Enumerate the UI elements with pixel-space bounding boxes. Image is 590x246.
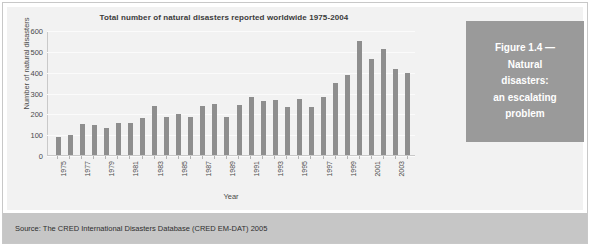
x-tick-mark xyxy=(250,156,251,159)
chart-title: Total number of natural disasters report… xyxy=(29,13,419,22)
x-tick-mark xyxy=(383,156,384,159)
bar xyxy=(405,73,410,155)
chart-panel: Total number of natural disasters report… xyxy=(7,7,583,210)
x-tick-label: 1977 xyxy=(84,161,91,177)
figure-caption-line: Figure 1.4 — xyxy=(493,40,556,57)
x-tick-mark xyxy=(93,156,94,159)
x-tick-label: 2003 xyxy=(398,161,405,177)
y-tick-label: 100 xyxy=(30,131,43,140)
y-tick-label: 600 xyxy=(30,27,43,36)
bar xyxy=(56,137,61,155)
bar xyxy=(80,124,85,155)
bar xyxy=(116,123,121,155)
x-tick-mark xyxy=(359,156,360,159)
x-tick-label: 1985 xyxy=(181,161,188,177)
figure-caption-box: Figure 1.4 —Naturaldisasters:an escalati… xyxy=(466,21,584,142)
figure-caption-line: Natural xyxy=(493,57,556,74)
bar xyxy=(333,83,338,155)
x-tick-mark xyxy=(117,156,118,159)
bar xyxy=(357,41,362,155)
figure-caption-text: Figure 1.4 —Naturaldisasters:an escalati… xyxy=(493,40,556,123)
plot-area: 0100200300400500600 19751977197919811983… xyxy=(47,31,415,156)
x-tick-mark xyxy=(407,156,408,159)
x-tick-label: 1995 xyxy=(301,161,308,177)
x-tick-label: 1997 xyxy=(326,161,333,177)
bar xyxy=(393,69,398,155)
x-tick-label: 1981 xyxy=(132,161,139,177)
x-tick-label: 1983 xyxy=(157,161,164,177)
x-tick-mark xyxy=(371,156,372,159)
x-tick-mark xyxy=(214,156,215,159)
bar xyxy=(140,118,145,155)
bar xyxy=(381,49,386,155)
x-tick-mark xyxy=(226,156,227,159)
bar xyxy=(224,117,229,155)
figure-caption-line: disasters: xyxy=(493,73,556,90)
x-tick-label: 1975 xyxy=(60,161,67,177)
x-tick-mark xyxy=(178,156,179,159)
bar xyxy=(237,105,242,155)
bar xyxy=(369,59,374,155)
x-tick-mark xyxy=(129,156,130,159)
x-tick-mark xyxy=(262,156,263,159)
x-tick-label: 1987 xyxy=(205,161,212,177)
y-tick-label: 200 xyxy=(30,110,43,119)
x-tick-mark xyxy=(81,156,82,159)
x-tick-label: 1999 xyxy=(350,161,357,177)
x-tick-label: 1979 xyxy=(108,161,115,177)
figure-caption-line: problem xyxy=(493,106,556,123)
x-tick-mark xyxy=(238,156,239,159)
bar xyxy=(212,104,217,155)
figure-container: Total number of natural disasters report… xyxy=(0,0,590,246)
x-axis-label: Year xyxy=(47,192,415,201)
bar xyxy=(200,106,205,155)
x-tick-mark xyxy=(57,156,58,159)
bar xyxy=(273,100,278,155)
x-tick-mark xyxy=(347,156,348,159)
x-tick-mark xyxy=(142,156,143,159)
bar xyxy=(92,125,97,155)
x-tick-mark xyxy=(69,156,70,159)
x-tick-label: 1993 xyxy=(277,161,284,177)
bar xyxy=(309,107,314,155)
y-tick-label: 400 xyxy=(30,68,43,77)
x-tick-mark xyxy=(166,156,167,159)
bar xyxy=(285,107,290,155)
bar xyxy=(164,117,169,155)
source-band: Source: The CRED International Disasters… xyxy=(3,213,587,243)
x-tick-mark xyxy=(202,156,203,159)
x-tick-mark xyxy=(323,156,324,159)
y-tick-label: 500 xyxy=(30,47,43,56)
x-tick-label: 1991 xyxy=(253,161,260,177)
bar xyxy=(321,97,326,155)
x-tick-mark xyxy=(395,156,396,159)
bar xyxy=(261,101,266,155)
y-tick-label: 300 xyxy=(30,89,43,98)
bar xyxy=(68,135,73,155)
bar xyxy=(152,106,157,155)
bar xyxy=(249,97,254,155)
figure-caption-line: an escalating xyxy=(493,90,556,107)
bar xyxy=(345,75,350,155)
bar xyxy=(176,114,181,155)
source-text: Source: The CRED International Disasters… xyxy=(3,224,267,233)
y-tick-label: 0 xyxy=(39,152,43,161)
bar xyxy=(104,128,109,155)
y-axis-label: Number of natural disasters xyxy=(22,9,31,119)
x-tick-mark xyxy=(335,156,336,159)
bar xyxy=(188,117,193,155)
plot-wrapper: 0100200300400500600 19751977197919811983… xyxy=(47,31,415,156)
x-tick-label: 2001 xyxy=(374,161,381,177)
bars-group xyxy=(48,31,415,155)
x-tick-mark xyxy=(105,156,106,159)
bar xyxy=(128,123,133,155)
x-tick-mark xyxy=(310,156,311,159)
gridline xyxy=(47,156,415,157)
x-tick-mark xyxy=(190,156,191,159)
x-tick-mark xyxy=(154,156,155,159)
x-tick-mark xyxy=(286,156,287,159)
x-tick-mark xyxy=(298,156,299,159)
x-tick-label: 1989 xyxy=(229,161,236,177)
x-tick-mark xyxy=(274,156,275,159)
bar xyxy=(297,99,302,155)
